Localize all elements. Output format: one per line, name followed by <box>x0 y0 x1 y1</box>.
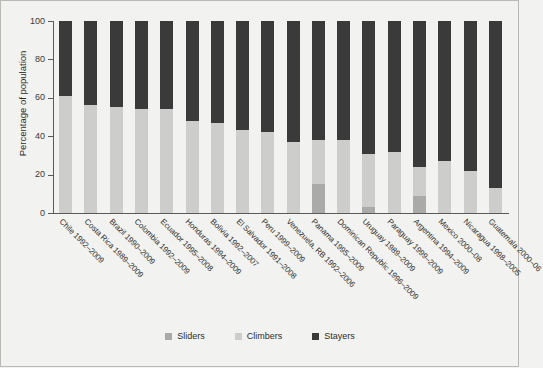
stacked-bar[interactable] <box>59 21 72 213</box>
stacked-bar[interactable] <box>211 21 224 213</box>
bar-segment-sliders <box>312 184 325 213</box>
bar-segment-climbers <box>464 171 477 213</box>
bar-segment-stayers <box>362 21 375 153</box>
bar-segment-stayers <box>413 21 426 167</box>
chart-legend: SlidersClimbersStayers <box>0 332 520 341</box>
bar-segment-climbers <box>59 96 72 213</box>
legend-swatch-stayers <box>312 333 319 340</box>
stacked-bar[interactable] <box>110 21 123 213</box>
legend-swatch-sliders <box>165 333 172 340</box>
y-axis-tick-label: 40 <box>5 132 45 141</box>
bar-segment-stayers <box>438 21 451 161</box>
bar-segment-climbers <box>84 105 97 213</box>
bar-segment-climbers <box>261 132 274 213</box>
bar-segment-stayers <box>337 21 350 140</box>
bar-segment-climbers <box>413 167 426 196</box>
x-axis-tick-label: Peru 1999–2009 <box>259 217 306 264</box>
legend-item-sliders[interactable]: Sliders <box>165 332 205 341</box>
legend-label: Sliders <box>177 332 205 341</box>
legend-label: Stayers <box>324 332 355 341</box>
stacked-bar[interactable] <box>464 21 477 213</box>
bar-segment-stayers <box>287 21 300 142</box>
y-axis-tick-label: 80 <box>5 55 45 64</box>
bar-segment-stayers <box>160 21 173 109</box>
y-axis-tick-label: 100 <box>5 17 45 26</box>
bar-segment-stayers <box>59 21 72 96</box>
bar-segment-climbers <box>312 140 325 184</box>
stacked-bar[interactable] <box>388 21 401 213</box>
legend-label: Climbers <box>247 332 283 341</box>
legend-swatch-climbers <box>235 333 242 340</box>
stacked-bar[interactable] <box>312 21 325 213</box>
stacked-bar[interactable] <box>337 21 350 213</box>
stacked-bar[interactable] <box>362 21 375 213</box>
bar-segment-stayers <box>186 21 199 121</box>
bar-segment-climbers <box>135 109 148 213</box>
stacked-bar[interactable] <box>84 21 97 213</box>
bar-segment-stayers <box>489 21 502 188</box>
stacked-bar[interactable] <box>135 21 148 213</box>
x-axis-line <box>53 213 509 214</box>
plot-area <box>53 21 508 213</box>
stacked-bar[interactable] <box>438 21 451 213</box>
bar-segment-stayers <box>464 21 477 171</box>
bar-segment-climbers <box>489 188 502 213</box>
bar-segment-stayers <box>261 21 274 132</box>
stacked-bar[interactable] <box>236 21 249 213</box>
bar-segment-climbers <box>388 152 401 213</box>
y-axis-ticks: 020406080100 <box>0 0 45 368</box>
stacked-bar[interactable] <box>160 21 173 213</box>
bar-segment-climbers <box>362 154 375 208</box>
y-axis-tick-label: 60 <box>5 93 45 102</box>
bar-segment-climbers <box>337 140 350 213</box>
bar-segment-climbers <box>438 161 451 213</box>
bar-segment-climbers <box>211 123 224 213</box>
stacked-bar[interactable] <box>413 21 426 213</box>
bar-segment-stayers <box>312 21 325 140</box>
bar-segment-climbers <box>287 142 300 213</box>
legend-item-stayers[interactable]: Stayers <box>312 332 355 341</box>
bar-segment-stayers <box>84 21 97 105</box>
bar-segment-climbers <box>160 109 173 213</box>
y-axis-tick-label: 0 <box>5 209 45 218</box>
bar-segment-stayers <box>236 21 249 130</box>
bar-segment-stayers <box>110 21 123 107</box>
y-axis-tick-label: 20 <box>5 170 45 179</box>
stacked-bar[interactable] <box>261 21 274 213</box>
bar-segment-climbers <box>110 107 123 213</box>
bar-segment-sliders <box>413 196 426 213</box>
bar-segment-climbers <box>186 121 199 213</box>
stacked-bar[interactable] <box>287 21 300 213</box>
x-axis-tick-label: Brazil 1990–2009 <box>108 217 157 266</box>
bar-segment-stayers <box>135 21 148 109</box>
bar-segment-climbers <box>236 130 249 213</box>
y-axis-tick <box>48 213 53 214</box>
x-axis-tick-label: Mexico 2000–08 <box>436 217 483 264</box>
legend-item-climbers[interactable]: Climbers <box>235 332 283 341</box>
bar-segment-stayers <box>388 21 401 152</box>
bar-segment-stayers <box>211 21 224 123</box>
x-axis-tick-label: Chile 1992–2009 <box>57 217 105 265</box>
bar-segment-sliders <box>362 207 375 213</box>
stacked-bar[interactable] <box>489 21 502 213</box>
stacked-bar[interactable] <box>186 21 199 213</box>
